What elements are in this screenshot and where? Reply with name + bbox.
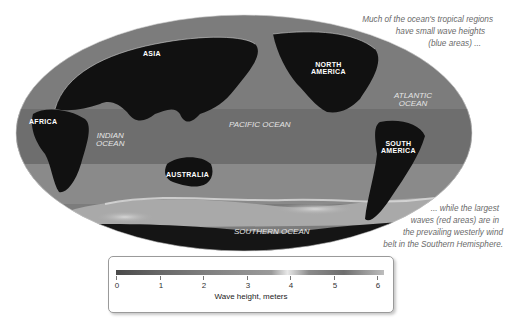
label-south-america-line1: SOUTH: [381, 140, 416, 147]
label-atlantic-ocean: ATLANTIC OCEAN: [394, 92, 432, 109]
label-north-america: NORTH AMERICA: [311, 61, 346, 76]
caption-bottom-line1: ... while the largest: [383, 203, 499, 215]
legend-tick: [377, 276, 378, 280]
caption-bottom-line4: belt in the Southern Hemisphere.: [383, 239, 503, 251]
label-indian-ocean: INDIAN OCEAN: [96, 132, 124, 149]
label-atlantic-ocean-line2: OCEAN: [394, 100, 432, 108]
caption-bottom-line3: the prevailing westerly wind: [383, 227, 503, 239]
legend-tick-label: 2: [198, 281, 210, 290]
label-north-america-line1: NORTH: [311, 61, 346, 68]
legend-title: Wave height, meters: [109, 292, 393, 301]
legend-tick: [203, 276, 204, 280]
legend-tick-label: 3: [242, 281, 254, 290]
legend-color-bar: [116, 270, 384, 275]
legend-tick-label: 6: [372, 281, 384, 290]
legend-tick-label: 1: [155, 281, 167, 290]
caption-bottom-line2: waves (red areas) are in: [383, 215, 499, 227]
label-southern-ocean: SOUTHERN OCEAN: [234, 228, 310, 236]
label-south-america: SOUTH AMERICA: [381, 140, 416, 155]
legend-tick: [116, 276, 117, 280]
label-pacific-ocean: PACIFIC OCEAN: [229, 121, 291, 129]
legend-tick: [334, 276, 335, 280]
wave-height-legend: 0 1 2 3 4 5 6 Wave height, meters: [108, 256, 394, 313]
caption-top: Much of the ocean's tropical regions hav…: [362, 14, 493, 50]
caption-top-line3: (blue areas) ...: [362, 38, 481, 50]
legend-tick-label: 0: [111, 281, 123, 290]
caption-top-line1: Much of the ocean's tropical regions: [362, 14, 493, 26]
legend-tick-label: 4: [285, 281, 297, 290]
label-asia: ASIA: [143, 50, 161, 57]
legend-tick: [160, 276, 161, 280]
label-north-america-line2: AMERICA: [311, 68, 346, 75]
legend-tick-label: 5: [329, 281, 341, 290]
label-australia: AUSTRALIA: [166, 171, 209, 178]
legend-tick: [290, 276, 291, 280]
legend-tick: [247, 276, 248, 280]
label-south-america-line2: AMERICA: [381, 147, 416, 154]
caption-top-line2: have small wave heights: [362, 26, 485, 38]
label-indian-ocean-line2: OCEAN: [96, 140, 124, 148]
label-africa: AFRICA: [29, 118, 57, 125]
caption-bottom: ... while the largest waves (red areas) …: [383, 203, 503, 251]
